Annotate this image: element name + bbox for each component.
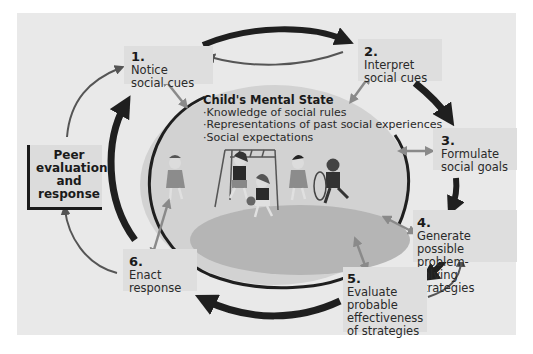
arrow-2-back-to-1 [210, 52, 343, 65]
step-3-label: Formulate social goals [441, 148, 508, 174]
step-5-number: 5. [347, 271, 361, 286]
playground-ground [190, 205, 410, 275]
arrow-5-to-6 [205, 300, 340, 316]
step-2-number: 2. [364, 44, 378, 59]
step-1-label: Notice social cues [131, 64, 194, 90]
step-6-number: 6. [129, 254, 143, 269]
step-1-number: 1. [131, 49, 145, 64]
step-5-label: Evaluate probable effectiveness of strat… [347, 286, 423, 338]
step-3-number: 3. [441, 133, 455, 148]
mental-state-item: Representations of past social experienc… [203, 119, 442, 132]
step-3-box: 3.Formulate social goals [433, 128, 517, 170]
step-4-box: 4.Generate possible problem- solving str… [413, 210, 517, 262]
mental-state-title: Child's Mental State [203, 94, 442, 107]
step-2-box: 2.Interpret social cues [358, 39, 442, 81]
arrow-6-to-1 [111, 105, 135, 240]
step-5-box: 5.Evaluate probable effectiveness of str… [343, 267, 427, 332]
mental-state-item: Social expectations [203, 132, 442, 145]
step-2-label: Interpret social cues [364, 59, 427, 85]
mental-state-text: Child's Mental State Knowledge of social… [203, 94, 442, 144]
arrow-6-to-peer [65, 210, 117, 273]
step-6-label: Enact response [129, 269, 181, 295]
arrow-1-to-2 [203, 29, 345, 45]
step-4-label: Generate possible problem- solving strat… [417, 230, 517, 295]
peer-evaluation-box: Peer evaluation and response [27, 145, 102, 210]
arrow-3-to-4 [452, 178, 456, 207]
step-1-box: 1.Notice social cues [124, 46, 213, 84]
step-6-box: 6.Enact response [123, 249, 197, 291]
arrow-peer-to-1 [67, 68, 120, 137]
step-4-number: 4. [417, 215, 431, 230]
